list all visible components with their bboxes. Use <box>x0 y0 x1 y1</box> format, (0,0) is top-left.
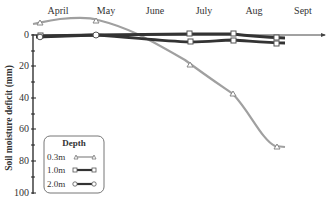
legend-label-0.3m: 0.3m <box>47 152 65 162</box>
legend-label-1.0m: 1.0m <box>47 165 65 175</box>
marker-square <box>274 41 279 46</box>
x-tick-june: June <box>146 5 165 16</box>
x-tick-aug: Aug <box>245 5 262 16</box>
x-tick-april: April <box>47 5 68 16</box>
marker-square <box>187 31 192 36</box>
x-tick-july: July <box>196 5 213 16</box>
y-tick-0: 0 <box>24 29 29 40</box>
x-axis-labels: April May June July Aug Sept <box>47 5 312 16</box>
series-0.3m <box>33 18 285 149</box>
marker-circle <box>93 32 99 38</box>
y-tick-20: 20 <box>19 60 29 71</box>
y-axis-label: Soil moisture deficit (mm) <box>4 65 15 171</box>
x-tick-may: May <box>97 5 115 16</box>
y-tick-80: 80 <box>19 155 29 166</box>
x-tick-sept: Sept <box>294 5 312 16</box>
marker-circle <box>37 34 43 40</box>
y-tick-40: 40 <box>19 92 29 103</box>
y-tick-60: 60 <box>19 123 29 134</box>
marker-square <box>231 38 236 43</box>
legend: Depth 0.3m 1.0m 2.0m <box>44 136 104 193</box>
y-axis: 0 20 40 60 80 100 <box>14 29 36 198</box>
marker-square <box>274 35 279 40</box>
marker-square <box>231 31 236 36</box>
legend-title: Depth <box>62 138 86 148</box>
legend-label-2.0m: 2.0m <box>47 179 65 189</box>
soil-moisture-chart: Soil moisture deficit (mm) April May Jun… <box>0 0 333 201</box>
marker-square <box>188 39 193 44</box>
y-tick-100: 100 <box>14 187 29 198</box>
